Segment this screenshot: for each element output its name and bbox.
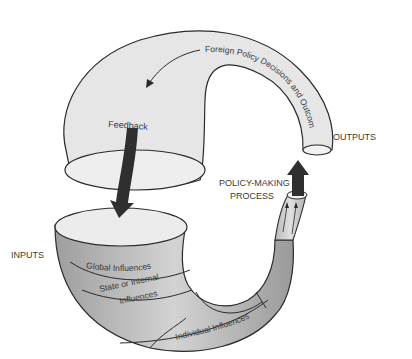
foreign-policy-process-diagram: OUTPUTS INPUTS POLICY-MAKING PROCESS Fee…	[0, 0, 412, 359]
inputs-label: INPUTS	[11, 250, 44, 260]
policy-making-label-line1: POLICY-MAKING	[219, 178, 290, 188]
policy-making-label-line2: PROCESS	[230, 191, 274, 201]
policy-tube	[275, 191, 307, 240]
inputs-bowl	[55, 208, 293, 351]
outputs-label: OUTPUTS	[333, 132, 376, 142]
policy-output-arrow-icon	[287, 160, 309, 196]
feedback-outputs-shape	[64, 31, 333, 190]
